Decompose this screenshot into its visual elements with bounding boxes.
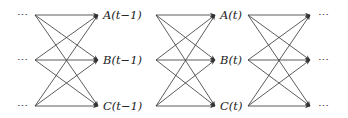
node-c-t-minus-1: C(t−1) bbox=[103, 99, 142, 113]
node-a-t: A(t) bbox=[219, 8, 242, 22]
unrolled-graph-diagram: ⋯ ⋯ ⋯ A(t−1) B(t−1) C(t−1) A(t) B(t) C(t… bbox=[0, 0, 348, 118]
node-b-t: B(t) bbox=[219, 53, 242, 67]
ellipsis-node-c-prev: ⋯ bbox=[17, 100, 28, 113]
edges bbox=[35, 15, 310, 106]
ellipsis-node-b-next: ⋯ bbox=[318, 54, 329, 67]
node-b-t-minus-1: B(t−1) bbox=[102, 53, 142, 67]
ellipsis-node-a-next: ⋯ bbox=[318, 9, 329, 22]
node-c-t: C(t) bbox=[220, 99, 242, 113]
ellipsis-node-c-next: ⋯ bbox=[318, 100, 329, 113]
ellipsis-node-b-prev: ⋯ bbox=[17, 54, 28, 67]
node-a-t-minus-1: A(t−1) bbox=[102, 8, 142, 22]
ellipsis-node-a-prev: ⋯ bbox=[17, 9, 28, 22]
